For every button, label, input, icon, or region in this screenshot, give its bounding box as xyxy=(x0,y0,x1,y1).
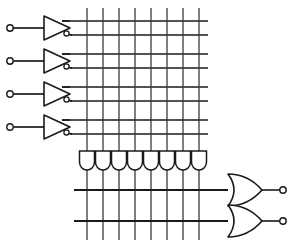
pla-schematic-svg xyxy=(0,0,295,244)
or-gate-2[interactable] xyxy=(228,205,286,237)
and-gate-5[interactable] xyxy=(144,151,159,170)
or-gate-1[interactable] xyxy=(228,174,286,206)
input-terminals-and-leads xyxy=(7,25,44,130)
product-term-vertical-lines xyxy=(87,8,199,240)
input-terminal-3[interactable] xyxy=(7,91,13,97)
and-gate-3[interactable] xyxy=(112,151,127,170)
pla-diagram-canvas xyxy=(0,0,295,244)
and-gate-2[interactable] xyxy=(96,151,111,170)
inverter-bubble-2 xyxy=(64,64,69,69)
inverter-buffer-2[interactable] xyxy=(44,49,72,73)
or-gate-body-1 xyxy=(228,174,262,206)
or-gate-body-2 xyxy=(228,205,262,237)
inverter-buffer-4[interactable] xyxy=(44,115,72,139)
and-gate-1[interactable] xyxy=(80,151,95,170)
output-terminal-1[interactable] xyxy=(280,187,286,193)
output-terminal-2[interactable] xyxy=(280,218,286,224)
input-terminal-4[interactable] xyxy=(7,124,13,130)
input-terminal-1[interactable] xyxy=(7,25,13,31)
input-terminal-2[interactable] xyxy=(7,58,13,64)
and-gate-4[interactable] xyxy=(128,151,143,170)
and-gate-8[interactable] xyxy=(192,151,207,170)
inverter-bubble-4 xyxy=(64,130,69,135)
inverter-buffer-3[interactable] xyxy=(44,82,72,106)
inverter-bubble-3 xyxy=(64,97,69,102)
inverter-bubble-1 xyxy=(64,31,69,36)
and-gate-row xyxy=(80,151,207,170)
and-gate-7[interactable] xyxy=(176,151,191,170)
and-gate-6[interactable] xyxy=(160,151,175,170)
inverter-buffer-1[interactable] xyxy=(44,16,72,40)
